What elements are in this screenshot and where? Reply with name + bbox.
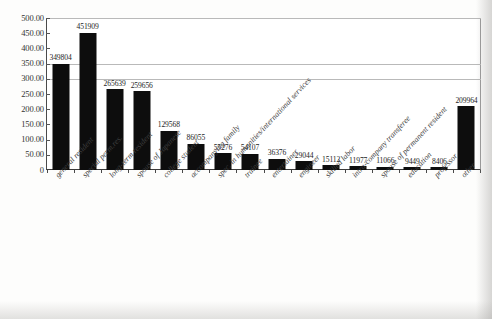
- y-axis-tick-label: 150.00: [2, 120, 44, 129]
- y-axis-tick-label: 250.00: [2, 90, 44, 99]
- bar-group: 36376: [264, 19, 291, 170]
- scanned-page: 500.00450.00400.00350.00300.00250.00200.…: [0, 0, 492, 319]
- y-axis-tick-label: 400.00: [2, 44, 44, 53]
- y-axis-tick-label: 100.00: [2, 135, 44, 144]
- bar[interactable]: [458, 106, 475, 170]
- x-axis-labels: general residentspecial perm.res.long-te…: [0, 170, 492, 310]
- y-axis-tick-label: 200.00: [2, 105, 44, 114]
- y-axis-tick-mark: [46, 48, 50, 49]
- y-axis-tick-mark: [46, 109, 50, 110]
- y-axis-tick-mark: [46, 79, 50, 80]
- bar-value-label: 265639: [104, 80, 126, 88]
- bar-chart: 500.00450.00400.00350.00300.00250.00200.…: [0, 0, 492, 319]
- bar-group: 349804: [47, 19, 74, 170]
- y-axis-tick-label: 300.00: [2, 74, 44, 83]
- y-axis-tick-label: 350.00: [2, 59, 44, 68]
- y-axis-tick-mark: [46, 64, 50, 65]
- y-axis-tick-label: 450.00: [2, 29, 44, 38]
- y-axis-tick-mark: [46, 18, 50, 19]
- y-axis-tick-label: 500.00: [2, 14, 44, 23]
- y-axis-tick-mark: [46, 94, 50, 95]
- y-axis-tick-mark: [46, 33, 50, 34]
- bar-value-label: 349804: [49, 54, 71, 62]
- bar[interactable]: [52, 64, 69, 170]
- bar-group: 15112: [318, 19, 345, 170]
- y-axis-tick-label: 50.00: [2, 150, 44, 159]
- bar-value-label: 209964: [455, 97, 477, 105]
- y-axis-tick-mark: [46, 140, 50, 141]
- bar-group: 209964: [453, 19, 480, 170]
- bar-group: 8406: [426, 19, 453, 170]
- y-axis-tick-mark: [46, 124, 50, 125]
- bar-value-label: 451909: [77, 23, 99, 31]
- y-axis-tick-mark: [46, 155, 50, 156]
- bar-value-label: 259656: [131, 82, 153, 90]
